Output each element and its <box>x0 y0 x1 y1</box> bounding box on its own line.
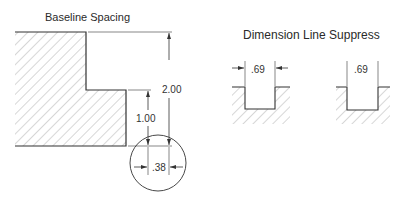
dimension-line-suppress-figure: Dimension Line Suppress .69 .69 <box>232 28 390 124</box>
drawing-canvas: Baseline Spacing 2.00 1.00 .38 Dimension… <box>0 0 400 202</box>
dimension-0-69-suppressed: .69 <box>354 64 368 75</box>
slot-hatch <box>232 87 290 124</box>
slot-example-shown: .69 <box>232 61 290 124</box>
dimension-line-suppress-title: Dimension Line Suppress <box>243 28 380 42</box>
dimension-1-00: 1.00 <box>136 113 156 124</box>
dimension-0-69-shown: .69 <box>251 64 265 75</box>
baseline-spacing-figure: Baseline Spacing 2.00 1.00 .38 <box>15 11 186 191</box>
baseline-spacing-title: Baseline Spacing <box>45 11 130 23</box>
slot-example-suppressed: .69 <box>336 61 390 124</box>
dimension-0-38: .38 <box>152 162 166 173</box>
slot-hatch <box>336 87 390 124</box>
dimension-2-00: 2.00 <box>162 84 182 95</box>
stepped-block <box>15 32 126 146</box>
